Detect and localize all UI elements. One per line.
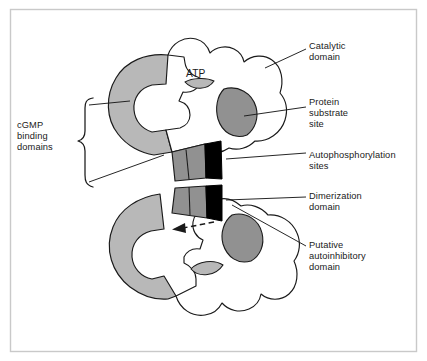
upper-autophosphorylation-sites <box>205 141 222 179</box>
label-protein-substrate-site: Protein substrate site <box>309 97 348 131</box>
label-putative-autoinhibitory-domain: Putative autoinhibitory domain <box>309 240 366 274</box>
label-catalytic-domain: Catalytic domain <box>309 41 346 63</box>
label-dimerization-domain: Dimerization domain <box>309 191 362 213</box>
label-atp: ATP <box>186 68 205 79</box>
label-cgmp-binding-domains: cGMP binding domains <box>17 120 53 154</box>
protein-kinase-dimer-diagram <box>0 0 427 361</box>
label-autophosphorylation-sites: Autophosphorylation sites <box>309 150 396 172</box>
lower-autophosphorylation-sites <box>206 185 222 221</box>
